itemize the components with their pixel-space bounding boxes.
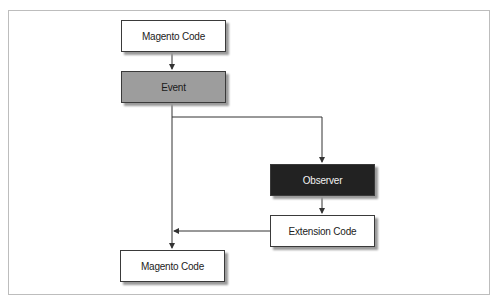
- node-label: Magento Code: [142, 31, 205, 42]
- node-magento-code-bottom: Magento Code: [120, 250, 225, 282]
- node-magento-code-top: Magento Code: [121, 20, 226, 52]
- node-label: Magento Code: [141, 261, 204, 272]
- edge-event-to-observer: [172, 117, 322, 162]
- node-label: Extension Code: [289, 226, 357, 237]
- connector-lines: [0, 0, 498, 304]
- node-extension-code: Extension Code: [270, 215, 375, 247]
- node-observer: Observer: [270, 164, 375, 196]
- node-label: Event: [161, 82, 186, 93]
- node-label: Observer: [303, 175, 343, 186]
- node-event: Event: [121, 71, 226, 103]
